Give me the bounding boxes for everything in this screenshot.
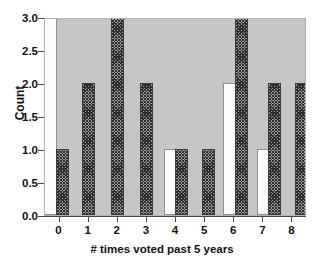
x-axis-tick-label: 1: [76, 224, 100, 236]
y-axis-tick-label: 1.5: [8, 112, 38, 122]
bar-hatched-2: [111, 18, 124, 215]
chart-figure: Count 0.00.51.01.52.02.53.0 012345678 # …: [0, 0, 324, 269]
x-axis-tick-mark: [88, 217, 89, 222]
bar-hatched-1: [82, 83, 95, 215]
y-axis-tick-labels: 0.00.51.01.52.02.53.0: [6, 0, 38, 269]
x-axis-tick-label: 4: [163, 224, 187, 236]
x-axis-tick-mark: [204, 217, 205, 222]
x-axis-tick-label: 6: [221, 224, 245, 236]
y-axis-tick-label: 0.5: [8, 178, 38, 188]
bar-hatched-7: [268, 83, 281, 215]
bar-hatched-5: [202, 149, 215, 215]
x-axis-tick-mark: [59, 217, 60, 222]
x-axis-tick-label: 2: [105, 224, 129, 236]
y-axis-tick-label: 2.5: [8, 46, 38, 56]
plot-area: [44, 18, 306, 216]
x-axis-tick-label: 5: [192, 224, 216, 236]
bar-hatched-8: [295, 83, 306, 215]
bar-hatched-3: [140, 83, 153, 215]
x-axis-tick-mark: [233, 217, 234, 222]
y-axis-tick-label: 2.0: [8, 79, 38, 89]
y-axis-tick-label: 3.0: [8, 13, 38, 23]
x-axis-tick-mark: [175, 217, 176, 222]
bar-hatched-0: [56, 149, 69, 215]
y-axis-tick-label: 1.0: [8, 145, 38, 155]
bar-hatched-6: [235, 18, 248, 215]
x-axis-tick-mark: [117, 217, 118, 222]
bar-hatched-4: [175, 149, 188, 215]
x-axis-tick-mark: [262, 217, 263, 222]
x-axis-tick-mark: [146, 217, 147, 222]
x-axis-tick-mark: [291, 217, 292, 222]
x-axis-tick-label: 0: [47, 224, 71, 236]
x-axis-tick-label: 7: [250, 224, 274, 236]
x-axis-label: # times voted past 5 years: [0, 243, 324, 255]
x-axis-tick-label: 3: [134, 224, 158, 236]
x-axis-tick-label: 8: [279, 224, 303, 236]
y-axis-tick-label: 0.0: [8, 211, 38, 221]
